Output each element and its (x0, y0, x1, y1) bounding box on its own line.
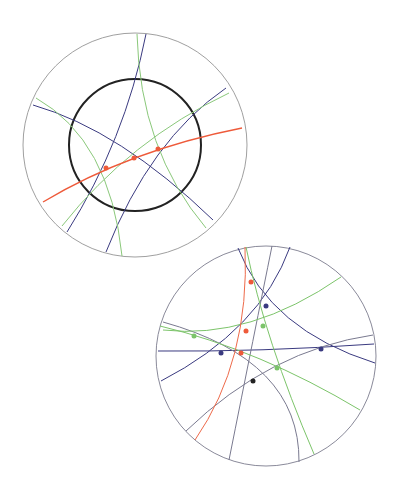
bottom-disk (156, 246, 376, 466)
bottom-blue-point (219, 351, 224, 356)
bottom-blue-point (264, 304, 269, 309)
bottom-green-geodesic-2 (160, 326, 360, 410)
bottom-green-geodesic-3 (246, 247, 314, 454)
bottom-green-point (275, 366, 280, 371)
top-red-point (156, 147, 161, 152)
bottom-red-point (244, 329, 249, 334)
top-red-point (104, 166, 109, 171)
bottom-green-point (192, 334, 197, 339)
bottom-red-point (239, 351, 244, 356)
bottom-red-point (249, 280, 254, 285)
top-outer-boundary (23, 33, 247, 257)
bottom-blue-geodesic-2 (161, 247, 290, 381)
bottom-blue-point (319, 347, 324, 352)
top-disk (23, 33, 247, 257)
bottom-black-point (251, 379, 256, 384)
top-red-point (132, 156, 137, 161)
top-blue-geodesic-3 (106, 88, 226, 252)
bottom-outer-boundary (156, 246, 376, 466)
bottom-green-point (261, 324, 266, 329)
bottom-gray-geodesic-1 (229, 246, 272, 460)
bottom-gray-geodesic-2 (163, 322, 299, 462)
top-blue-geodesic-1 (67, 34, 146, 232)
bottom-green-geodesic-1 (163, 277, 341, 331)
top-green-geodesic-2 (36, 98, 122, 256)
diagram-canvas (0, 0, 401, 502)
top-green-geodesic-3 (62, 93, 229, 226)
